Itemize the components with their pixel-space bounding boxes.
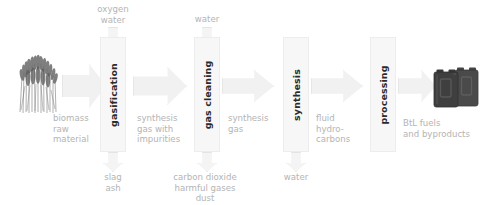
stream-label-synthesis-gas: synthesis gas <box>228 113 282 134</box>
input-label-water-gas-cleaning: water <box>177 14 237 25</box>
btl-process-flow-diagram: biomass raw material oxygen water gasifi… <box>0 0 493 205</box>
stream-label-btl-fuels: BtL fuels and byproducts <box>403 118 489 139</box>
biomass-crop-illustration <box>12 52 64 114</box>
output-label-carbon-dioxide-harmful-gases-dust: carbon dioxide harmful gases dust <box>165 172 245 204</box>
process-label-gasification: gasification <box>108 63 119 127</box>
process-label-synthesis: synthesis <box>291 69 302 121</box>
process-box-gasification[interactable]: gasification <box>100 37 126 152</box>
process-label-processing: processing <box>378 65 389 124</box>
output-arrow-slag-ash <box>103 152 123 172</box>
fuel-canister-illustration <box>431 63 481 111</box>
output-arrow-carbon-dioxide-harmful-gases-dust <box>197 152 217 172</box>
process-label-gas-cleaning: gas cleaning <box>202 60 213 129</box>
stream-label-synthesis-gas-with-impurities: synthesis gas with impurities <box>137 113 199 145</box>
flow-arrow-gasification-to-gas-cleaning <box>133 67 187 105</box>
flow-arrow-synthesis-to-processing <box>311 70 363 102</box>
flow-arrow-gas-cleaning-to-synthesis <box>222 70 274 102</box>
input-label-oxygen-water: oxygen water <box>83 4 143 25</box>
process-box-gas-cleaning[interactable]: gas cleaning <box>194 37 220 152</box>
process-box-synthesis[interactable]: synthesis <box>283 37 309 152</box>
process-box-processing[interactable]: processing <box>370 37 396 152</box>
output-label-water-synthesis: water <box>266 172 326 183</box>
output-label-slag-ash: slag ash <box>83 172 143 193</box>
stream-label-fluid-hydrocarbons: fluid hydro- carbons <box>316 113 368 145</box>
output-arrow-water-synthesis <box>286 152 306 172</box>
